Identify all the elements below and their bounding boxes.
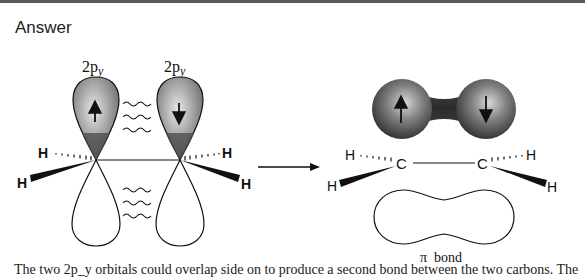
hashed-bond-left: [56, 153, 91, 161]
hydrogen-label: H: [547, 179, 557, 195]
right-molecule: C C H H H H π bond: [327, 79, 557, 265]
hydrogen-label: H: [17, 175, 27, 191]
hydrogen-label: H: [526, 147, 536, 163]
hashed-bond-left: [361, 155, 391, 162]
wedge-bond-right: [490, 166, 547, 187]
hashed-bond-right: [492, 155, 522, 162]
orbital-label-right: 2py: [164, 58, 186, 78]
left-molecule: 2py 2py: [17, 58, 251, 246]
hydrogen-label: H: [241, 176, 251, 192]
carbon-label: C: [477, 155, 488, 172]
carbon-label: C: [396, 155, 407, 172]
pi-bond-upper-lobe: [372, 79, 516, 139]
hashed-bond-right: [185, 153, 219, 161]
hydrogen-label: H: [38, 145, 48, 161]
caption-text: The two 2p_y orbitals could overlap side…: [14, 262, 585, 278]
hydrogen-label: H: [345, 147, 355, 163]
wedge-bond-left: [339, 166, 396, 187]
orbital-label-left: 2py: [82, 58, 104, 78]
hydrogen-label: H: [327, 178, 337, 194]
hydrogen-label: H: [222, 145, 232, 161]
pi-bond-lower-lobe: [374, 190, 514, 244]
p-orbital-bottom-lobe-left: [72, 160, 120, 246]
right-arrow-icon: [258, 163, 320, 171]
p-orbital-bottom-lobe-right: [156, 160, 204, 246]
